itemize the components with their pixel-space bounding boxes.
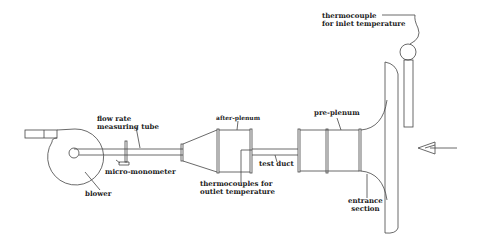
contraction-cone: [181, 130, 217, 172]
label-pre-plenum: pre-plenum: [314, 109, 360, 117]
label-flow-tube-line2: measuring tube: [97, 123, 159, 131]
inlet-thermocouple-shape: [382, 15, 419, 127]
pre-plenum-shape: [298, 118, 361, 173]
flow-arrow-icon: [418, 142, 457, 154]
blower-shape: [25, 129, 104, 190]
label-entrance-section: entrance section: [348, 197, 383, 213]
label-micro-monometer: micro-monometer: [105, 168, 176, 176]
micro-monometer-shape: [116, 141, 129, 165]
label-after-plenum: after-plenum: [216, 114, 260, 122]
label-blower: blower: [85, 190, 111, 198]
label-flow-tube: flow rate measuring tube: [97, 115, 159, 131]
flow-tube-shape: [74, 127, 183, 155]
apparatus-diagram: [0, 0, 479, 245]
label-entrance-line2: section: [348, 205, 383, 213]
label-inlet-thermocouple-line2: for inlet temperature: [322, 20, 405, 28]
label-inlet-thermocouple: thermocouple for inlet temperature: [322, 12, 405, 28]
label-outlet-thermocouples: thermocouples for outlet temperature: [200, 180, 275, 196]
label-test-duct: test duct: [259, 160, 294, 168]
label-outlet-thermocouples-line2: outlet temperature: [200, 188, 275, 196]
after-plenum-shape: [217, 121, 252, 173]
